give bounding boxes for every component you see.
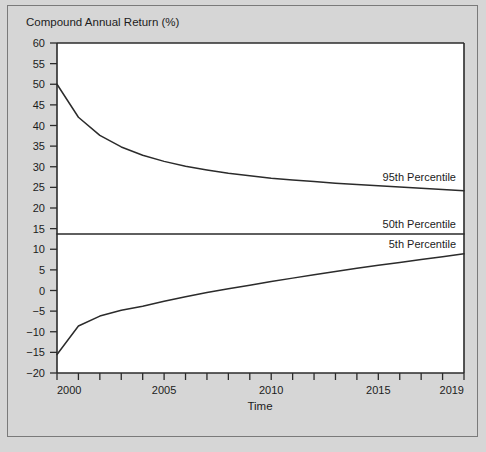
x-tick-label: 2019	[440, 384, 464, 396]
y-tick-label: −20	[26, 367, 45, 379]
y-tick-label: 30	[33, 161, 45, 173]
y-tick-label: 15	[33, 223, 45, 235]
y-tick-label: 5	[39, 264, 45, 276]
plot-area-background	[57, 43, 464, 373]
x-tick-label: 2010	[259, 384, 283, 396]
y-tick-label: 10	[33, 243, 45, 255]
series-label-5th-percentile: 5th Percentile	[389, 238, 456, 250]
y-tick-label: 50	[33, 78, 45, 90]
x-tick-label: 2015	[366, 384, 390, 396]
x-tick-label: 2000	[57, 384, 81, 396]
y-tick-label: 35	[33, 140, 45, 152]
y-axis-title: Compound Annual Return (%)	[26, 16, 180, 28]
y-tick-label: 55	[33, 58, 45, 70]
chart-container: 605550454035302520151050−5−10−15−20 2000…	[0, 0, 486, 452]
y-tick-label: −10	[26, 326, 45, 338]
y-tick-label: 25	[33, 181, 45, 193]
y-tick-label: −15	[26, 346, 45, 358]
percentile-line-chart: 605550454035302520151050−5−10−15−20 2000…	[0, 0, 486, 452]
y-tick-label: −5	[32, 305, 45, 317]
x-tick-label: 2005	[152, 384, 176, 396]
y-tick-label: 45	[33, 99, 45, 111]
y-tick-label: 0	[39, 285, 45, 297]
series-label-95th-percentile: 95th Percentile	[383, 171, 456, 183]
y-tick-label: 60	[33, 37, 45, 49]
x-axis-ticks: 20002005201020152019	[57, 373, 464, 396]
x-axis-title: Time	[247, 400, 272, 412]
y-tick-label: 40	[33, 120, 45, 132]
series-label-50th-percentile: 50th Percentile	[383, 218, 456, 230]
y-tick-label: 20	[33, 202, 45, 214]
y-axis-ticks: 605550454035302520151050−5−10−15−20	[26, 37, 57, 379]
